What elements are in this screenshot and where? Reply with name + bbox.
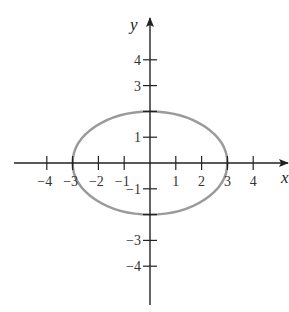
x-axis-label: x [280, 168, 289, 187]
y-tick-label: 1 [134, 130, 141, 145]
y-axis-label: y [128, 15, 138, 34]
x-axis-ticks: −4−3−2−11234 [37, 156, 256, 189]
x-tick-label: −2 [89, 174, 104, 189]
x-tick-label: 2 [198, 174, 205, 189]
y-tick-label: −3 [126, 233, 141, 248]
y-tick-label: 3 [134, 79, 141, 94]
ellipse-plot: −4−3−2−11234 431−1−3−4 x y [0, 0, 289, 312]
x-tick-label: 1 [172, 174, 179, 189]
x-tick-label: 4 [250, 174, 257, 189]
y-tick-label: −1 [126, 182, 141, 197]
y-tick-label: −4 [126, 259, 141, 274]
x-tick-label: −3 [63, 174, 78, 189]
y-tick-label: 4 [134, 53, 141, 68]
x-tick-label: −4 [37, 174, 52, 189]
x-tick-label: 3 [224, 174, 231, 189]
